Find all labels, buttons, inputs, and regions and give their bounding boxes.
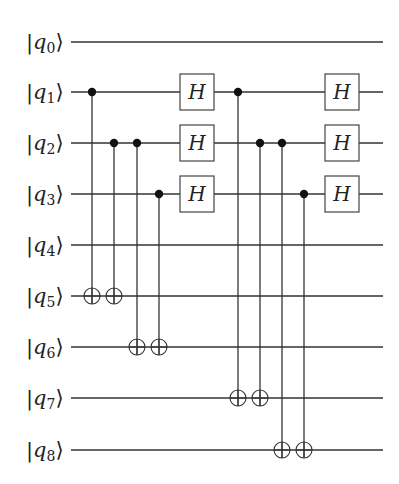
cnot-gate xyxy=(151,190,167,355)
target-oplus-icon xyxy=(252,390,268,406)
control-dot-icon xyxy=(110,139,118,147)
cnot-gate xyxy=(252,139,268,406)
hadamard-gate: H xyxy=(180,74,214,110)
target-oplus-icon xyxy=(230,390,246,406)
hadamard-gate: H xyxy=(325,74,359,110)
qubit-label: |q7⟩ xyxy=(26,386,64,412)
cnot-gate xyxy=(296,190,312,458)
qubit-label: |q2⟩ xyxy=(26,131,64,157)
target-oplus-icon xyxy=(296,442,312,458)
target-oplus-icon xyxy=(106,288,122,304)
gate-label: H xyxy=(332,131,351,155)
cnot-gate xyxy=(230,88,246,406)
qubit-label: |q0⟩ xyxy=(26,30,64,56)
target-oplus-icon xyxy=(151,339,167,355)
hadamard-gate: H xyxy=(180,125,214,161)
cnot-gate xyxy=(274,139,290,458)
quantum-circuit-diagram: |q0⟩|q1⟩|q2⟩|q3⟩|q4⟩|q5⟩|q6⟩|q7⟩|q8⟩ HHH… xyxy=(0,0,399,484)
qubit-labels: |q0⟩|q1⟩|q2⟩|q3⟩|q4⟩|q5⟩|q6⟩|q7⟩|q8⟩ xyxy=(26,30,64,464)
qubit-label: |q3⟩ xyxy=(26,182,64,208)
qubit-label: |q5⟩ xyxy=(26,284,64,310)
hadamard-gate: H xyxy=(180,176,214,212)
control-dot-icon xyxy=(278,139,286,147)
control-dot-icon xyxy=(256,139,264,147)
hadamard-gate: H xyxy=(325,176,359,212)
gate-label: H xyxy=(187,131,206,155)
control-dot-icon xyxy=(234,88,242,96)
target-oplus-icon xyxy=(129,339,145,355)
gate-label: H xyxy=(187,80,206,104)
target-oplus-icon xyxy=(274,442,290,458)
qubit-label: |q1⟩ xyxy=(26,80,64,106)
cnot-gate xyxy=(129,139,145,355)
cnot-gate xyxy=(84,88,100,304)
qubit-label: |q4⟩ xyxy=(26,233,64,259)
control-dot-icon xyxy=(133,139,141,147)
qubit-label: |q8⟩ xyxy=(26,438,64,464)
control-dot-icon xyxy=(300,190,308,198)
gate-label: H xyxy=(332,182,351,206)
control-dot-icon xyxy=(155,190,163,198)
hadamard-gate: H xyxy=(325,125,359,161)
qubit-label: |q6⟩ xyxy=(26,335,64,361)
cnot-gate xyxy=(106,139,122,304)
gate-label: H xyxy=(332,80,351,104)
target-oplus-icon xyxy=(84,288,100,304)
gate-label: H xyxy=(187,182,206,206)
control-dot-icon xyxy=(88,88,96,96)
